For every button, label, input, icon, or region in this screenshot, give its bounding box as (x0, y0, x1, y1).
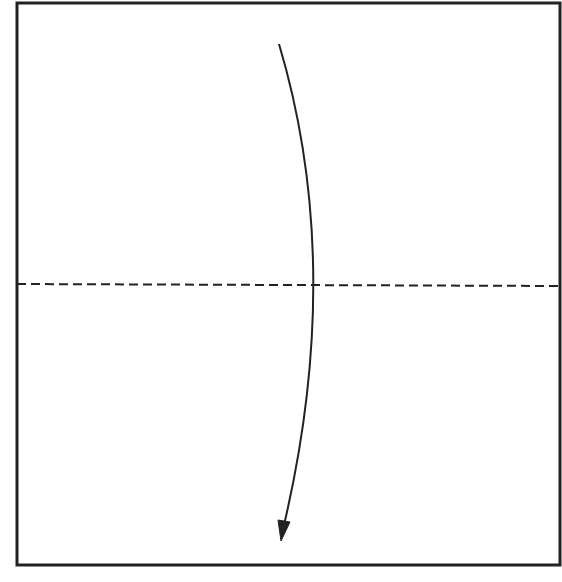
fold-diagram (0, 0, 562, 582)
